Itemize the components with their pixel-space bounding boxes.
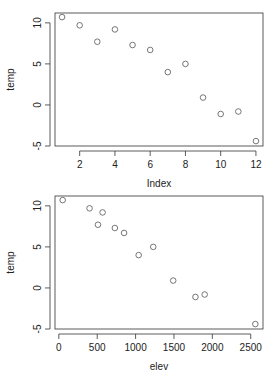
x-tick-label: 2000 (201, 342, 224, 353)
y-tick-label: 0 (32, 285, 43, 291)
x-tick-label: 4 (112, 159, 118, 170)
data-point (236, 109, 242, 115)
data-point (253, 138, 259, 144)
data-point (200, 95, 206, 101)
data-point (147, 47, 153, 53)
y-tick-label: 5 (32, 61, 43, 67)
data-point (150, 244, 156, 250)
data-points (59, 14, 258, 144)
x-tick-label: 10 (215, 159, 227, 170)
data-point (183, 61, 189, 67)
data-point (60, 197, 66, 203)
data-point (77, 23, 83, 29)
x-tick-label: 8 (183, 159, 189, 170)
data-point (218, 111, 224, 117)
y-axis: -50510 (32, 17, 50, 151)
data-point (202, 292, 208, 298)
x-tick-label: 6 (147, 159, 153, 170)
y-tick-label: 10 (32, 200, 43, 212)
data-point (165, 69, 171, 75)
y-tick-label: 0 (32, 102, 43, 108)
data-point (170, 278, 176, 284)
y-tick-label: -5 (32, 141, 43, 150)
y-axis-label: temp (5, 68, 16, 91)
scatter-plot-temp-vs-elev: 05001000150020002500elev-50510temp (5, 196, 263, 372)
y-axis: -50510 (32, 200, 50, 334)
data-point (130, 42, 136, 48)
plot-frame (55, 196, 263, 329)
data-point (193, 294, 199, 300)
x-tick-label: 500 (89, 342, 106, 353)
data-point (112, 27, 118, 33)
y-axis-label: temp (5, 251, 16, 274)
x-axis: 05001000150020002500 (56, 334, 262, 353)
x-tick-label: 0 (56, 342, 62, 353)
figure: 24681012Index-50510temp 0500100015002000… (0, 0, 274, 377)
x-tick-label: 2 (77, 159, 83, 170)
y-tick-label: -5 (32, 324, 43, 333)
data-point (100, 210, 106, 216)
x-axis: 24681012 (77, 151, 262, 170)
data-points (60, 197, 258, 327)
data-point (136, 252, 142, 258)
scatter-plot-temp-vs-index: 24681012Index-50510temp (5, 13, 263, 189)
plot-frame (55, 13, 263, 146)
data-point (95, 222, 101, 228)
data-point (253, 321, 259, 327)
data-point (95, 39, 101, 45)
x-axis-label: Index (147, 178, 171, 189)
x-tick-label: 1500 (163, 342, 186, 353)
x-axis-label: elev (150, 361, 168, 372)
data-point (121, 230, 127, 236)
x-tick-label: 1000 (124, 342, 147, 353)
data-point (59, 14, 65, 20)
data-point (87, 206, 93, 212)
x-tick-label: 12 (250, 159, 262, 170)
y-tick-label: 10 (32, 17, 43, 29)
x-tick-label: 2500 (240, 342, 263, 353)
y-tick-label: 5 (32, 244, 43, 250)
data-point (112, 225, 118, 231)
